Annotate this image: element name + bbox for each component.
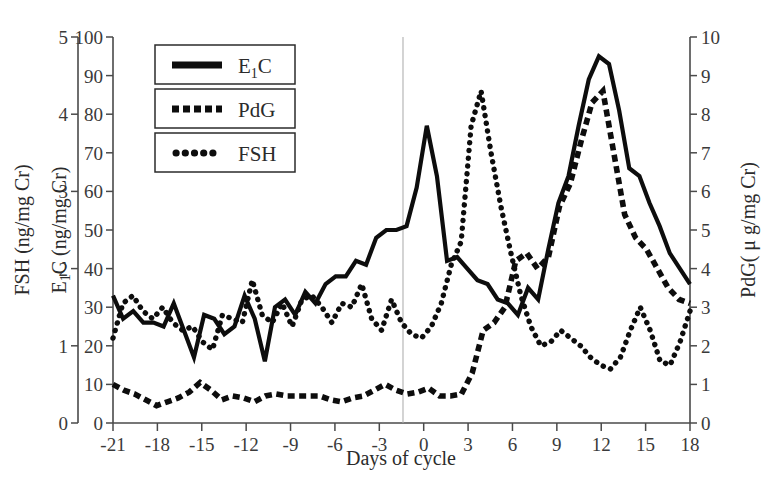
- x-axis-tick-label: -15: [189, 434, 214, 455]
- right-axis-tick-label: 0: [701, 413, 711, 434]
- chart-background: [0, 0, 784, 503]
- x-axis-tick-label: -9: [283, 434, 299, 455]
- right-axis-tick-label: 1: [701, 374, 711, 395]
- x-axis-tick-label: 15: [636, 434, 655, 455]
- left-inner-axis-title: E1C (ng/mg Cr): [48, 167, 73, 294]
- x-axis-tick-label: -18: [145, 434, 170, 455]
- left-outer-axis-tick-label: 0: [59, 413, 69, 434]
- right-axis-tick-label: 2: [701, 336, 711, 357]
- hormone-cycle-chart-figure: 012345 0102030405060708090100 0123456789…: [0, 0, 784, 503]
- right-axis-tick-label: 10: [701, 27, 720, 48]
- left-inner-axis-tick-label: 60: [84, 181, 103, 202]
- left-inner-axis-tick-label: 30: [84, 297, 103, 318]
- x-axis-tick-label: 9: [552, 434, 562, 455]
- left-outer-axis-tick-label: 5: [59, 27, 69, 48]
- legend-label-fsh: FSH: [238, 142, 277, 166]
- x-axis-tick-label: -21: [100, 434, 125, 455]
- right-axis-tick-label: 6: [701, 181, 711, 202]
- left-inner-axis-tick-label: 70: [84, 143, 103, 164]
- x-axis-tick-label: 18: [681, 434, 700, 455]
- x-axis-tick-label: 6: [508, 434, 518, 455]
- x-axis-title: Days of cycle: [346, 447, 456, 470]
- x-axis-tick-label: 12: [592, 434, 611, 455]
- left-inner-axis-tick-label: 90: [84, 66, 103, 87]
- right-axis-tick-label: 7: [701, 143, 711, 164]
- left-inner-axis-tick-label: 0: [94, 413, 104, 434]
- right-axis-tick-label: 4: [701, 259, 711, 280]
- left-inner-axis-tick-label: 40: [84, 259, 103, 280]
- right-axis-tick-label: 8: [701, 104, 711, 125]
- left-inner-axis-tick-label: 50: [84, 220, 103, 241]
- chart-canvas: 012345 0102030405060708090100 0123456789…: [0, 0, 784, 503]
- right-axis-tick-label: 5: [701, 220, 711, 241]
- left-inner-axis-tick-label: 20: [84, 336, 103, 357]
- left-outer-axis-title: FSH (ng/mg Cr): [11, 164, 34, 295]
- right-axis-title: PdG( μ g/mg Cr): [737, 162, 760, 298]
- left-inner-axis-tick-label: 100: [75, 27, 104, 48]
- legend-label-pdg: PdG: [238, 98, 275, 122]
- left-inner-axis-tick-label: 10: [84, 374, 103, 395]
- x-axis-tick-label: -12: [233, 434, 258, 455]
- x-axis-tick-label: 3: [463, 434, 473, 455]
- left-outer-axis-tick-label: 4: [59, 104, 69, 125]
- right-axis-tick-label: 3: [701, 297, 711, 318]
- x-axis-tick-label: -6: [327, 434, 343, 455]
- left-outer-axis-tick-label: 1: [59, 336, 69, 357]
- right-axis-tick-label: 9: [701, 66, 711, 87]
- left-inner-axis-title-text: E: [48, 281, 70, 293]
- left-inner-axis-tick-label: 80: [84, 104, 103, 125]
- chart-legend: E1C PdG FSH: [155, 45, 295, 172]
